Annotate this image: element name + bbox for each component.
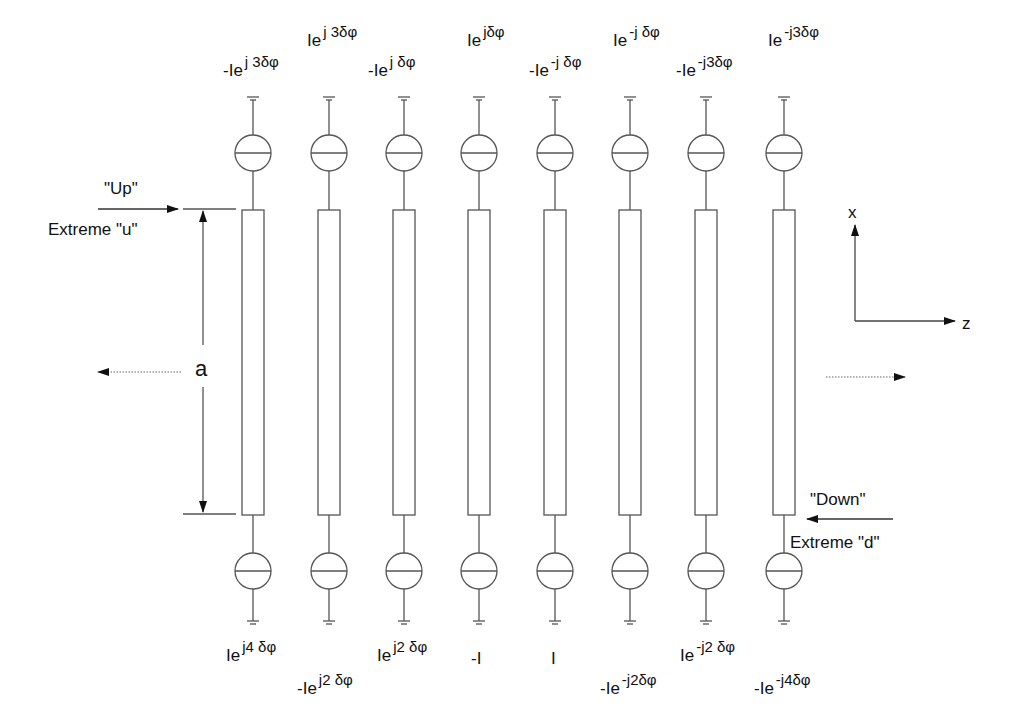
current-label-bottom: Ie-j2 δφ (680, 647, 735, 664)
current-base: -I (471, 649, 481, 668)
current-label-bottom: -Iej2 δφ (297, 680, 353, 697)
transmission-element (468, 210, 490, 515)
current-label-bottom: -Ie-j4δφ (754, 680, 811, 697)
transmission-element (619, 210, 641, 515)
transmission-element (242, 210, 264, 515)
phase-exponent: jδφ (483, 23, 504, 40)
current-label-top: Iejδφ (467, 32, 505, 49)
element-array (235, 97, 802, 624)
phase-exponent: -j3δφ (698, 53, 733, 70)
current-base: Ie (613, 31, 627, 50)
current-base: I (551, 649, 556, 668)
transmission-element (695, 210, 717, 515)
axis-z-label: z (962, 315, 971, 332)
extreme-u-label: Extreme "u" (48, 221, 138, 238)
transmission-element (544, 210, 566, 515)
up-label: "Up" (104, 180, 138, 197)
current-label-bottom: I (551, 650, 558, 667)
phase-exponent: -j2δφ (622, 671, 657, 688)
phase-exponent: j δφ (390, 53, 416, 70)
axis-x-label: x (848, 204, 857, 221)
current-label-bottom: -I (471, 650, 483, 667)
current-label-top: Iej 3δφ (307, 32, 357, 49)
current-base: Ie (377, 646, 391, 665)
current-base: -Ie (676, 61, 696, 80)
dimension-a-label: a (195, 358, 207, 380)
phase-exponent: -j2 δφ (696, 638, 735, 655)
down-label: "Down" (810, 491, 866, 508)
current-label-top: Ie-j δφ (613, 32, 660, 49)
phase-exponent: j4 δφ (242, 638, 276, 655)
current-base: -Ie (223, 61, 243, 80)
transmission-element (393, 210, 415, 515)
phase-exponent: -j4δφ (776, 671, 811, 688)
current-base: Ie (680, 646, 694, 665)
current-base: Ie (307, 31, 321, 50)
current-label-bottom: Iej2 δφ (377, 647, 427, 664)
current-base: -Ie (529, 61, 549, 80)
current-label-top: -Ie-j δφ (529, 62, 581, 79)
current-label-top: Ie-j3δφ (768, 32, 819, 49)
phase-exponent: j2 δφ (393, 638, 427, 655)
current-base: Ie (226, 646, 240, 665)
extreme-d-label: Extreme "d" (790, 534, 880, 551)
current-label-top: -Iej δφ (368, 62, 415, 79)
current-base: Ie (467, 31, 481, 50)
transmission-element (773, 210, 795, 515)
current-label-top: -Ie-j3δφ (676, 62, 733, 79)
current-label-top: -Iej 3δφ (223, 62, 279, 79)
diagram-canvas (0, 0, 1018, 725)
current-base: Ie (768, 31, 782, 50)
current-base: -Ie (368, 61, 388, 80)
phase-exponent: -j3δφ (784, 23, 819, 40)
phase-exponent: -j δφ (629, 23, 660, 40)
current-base: -Ie (754, 679, 774, 698)
phase-exponent: j 3δφ (323, 23, 357, 40)
current-base: -Ie (297, 679, 317, 698)
phase-exponent: j 3δφ (245, 53, 279, 70)
phase-exponent: j2 δφ (319, 671, 353, 688)
current-label-bottom: -Ie-j2δφ (600, 680, 657, 697)
transmission-element (318, 210, 340, 515)
current-base: -Ie (600, 679, 620, 698)
phase-exponent: -j δφ (551, 53, 582, 70)
current-label-bottom: Iej4 δφ (226, 647, 276, 664)
